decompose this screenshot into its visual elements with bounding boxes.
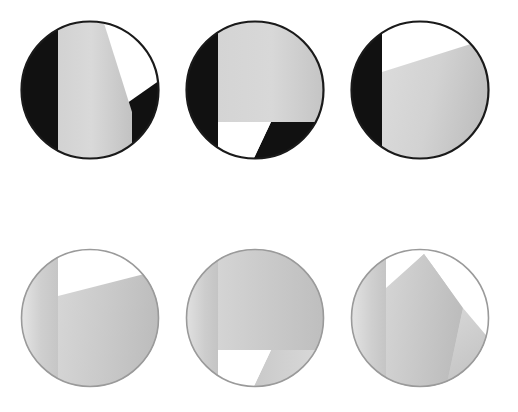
- panel-top-center: [185, 20, 325, 160]
- top-left-disc: [20, 20, 160, 160]
- figure-canvas: [0, 0, 518, 412]
- bottom-center-disc: [185, 248, 325, 388]
- panel-bottom-left: [20, 248, 160, 388]
- region-left-lobe: [350, 248, 386, 388]
- bottom-left-disc: [20, 248, 160, 388]
- bottom-right-disc: [350, 248, 490, 388]
- region-left-lobe: [20, 248, 58, 388]
- panel-bottom-center: [185, 248, 325, 388]
- region-left-lobe: [350, 20, 382, 160]
- region-left-lobe: [185, 248, 218, 388]
- panel-bottom-right: [350, 248, 490, 388]
- region-upper-block: [218, 20, 325, 122]
- region-left-lobe: [185, 20, 218, 160]
- region-left-lobe: [20, 20, 58, 160]
- panel-top-left: [20, 20, 160, 160]
- region-upper-block: [218, 248, 325, 350]
- top-center-disc: [185, 20, 325, 160]
- top-right-disc: [350, 20, 490, 160]
- panel-top-right: [350, 20, 490, 160]
